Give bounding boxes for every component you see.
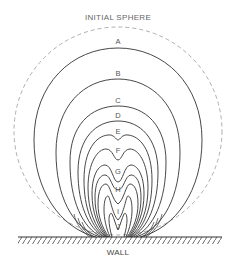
label-d: D [115,111,121,120]
wall-label: WALL [107,248,130,257]
bubble-collapse-diagram: INITIAL SPHERE A B C D E F G H I J WALL [0,0,236,269]
label-a: A [115,37,120,46]
label-j: J [116,222,120,231]
label-e: E [115,127,120,136]
label-i: I [117,207,119,216]
label-c: C [115,96,121,105]
wall-hatching [18,237,222,244]
label-g: G [115,167,121,176]
label-h: H [115,185,120,194]
label-f: F [116,146,121,155]
initial-sphere-label: INITIAL SPHERE [85,13,151,22]
label-b: B [115,69,120,78]
